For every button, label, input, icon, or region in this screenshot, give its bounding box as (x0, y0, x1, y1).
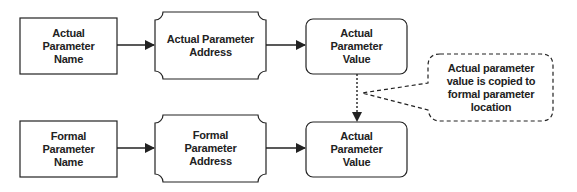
formal-name-label: Formal Parameter Name (30, 121, 107, 177)
actual-value-label-top: Actual Parameter Value (316, 19, 397, 74)
actual-value-label-bottom: Actual Parameter Value (316, 122, 397, 177)
actual-address-label: Actual Parameter Address (165, 12, 256, 79)
formal-address-label: Formal Parameter Address (178, 115, 243, 182)
callout-text: Actual parameter value is copied to form… (440, 54, 542, 121)
actual-name-label: Actual Parameter Name (30, 18, 107, 74)
